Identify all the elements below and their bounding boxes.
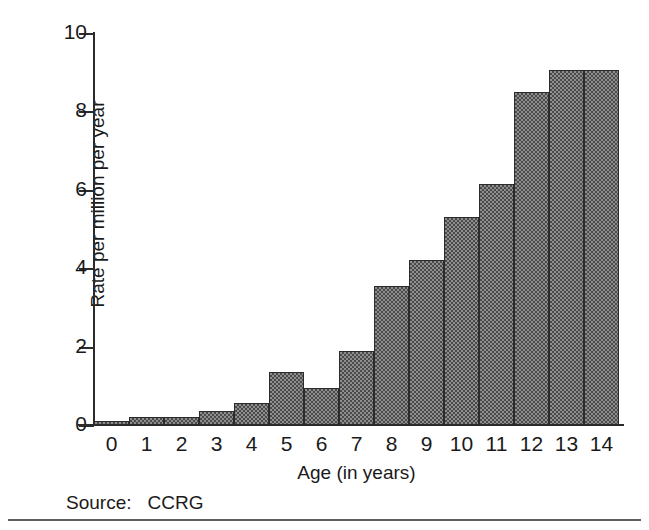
x-axis-tick-label: 12 (514, 432, 549, 456)
y-axis-tick-label: 4 (75, 256, 87, 278)
source-note: Source:CCRG (66, 492, 203, 514)
y-axis-tick-label: 2 (75, 335, 87, 357)
x-axis-tick-label: 8 (374, 432, 409, 456)
x-axis-tick-label: 3 (199, 432, 234, 456)
bottom-divider (8, 519, 641, 521)
bar (304, 388, 339, 425)
bar (514, 92, 549, 425)
x-axis-tick-labels: 01234567891011121314 (94, 432, 619, 460)
x-axis-tick-label: 0 (94, 432, 129, 456)
bar (479, 184, 514, 425)
bar (269, 372, 304, 425)
y-axis-tick-label: 6 (75, 178, 87, 200)
x-axis-tick-label: 6 (304, 432, 339, 456)
bar (549, 70, 584, 425)
bar (339, 351, 374, 425)
bar (374, 286, 409, 425)
plot-area: Rate per million per year 0246810 (94, 33, 619, 425)
x-axis-tick-label: 2 (164, 432, 199, 456)
bar (584, 70, 619, 425)
x-axis-tick-label: 5 (269, 432, 304, 456)
bar (234, 403, 269, 425)
x-axis-tick-label: 13 (549, 432, 584, 456)
bar (199, 411, 234, 425)
x-axis-tick-label: 7 (339, 432, 374, 456)
y-axis-tick-label: 8 (75, 99, 87, 121)
x-axis-tick-label: 9 (409, 432, 444, 456)
x-axis-tick-label: 14 (584, 432, 619, 456)
bar (444, 217, 479, 425)
source-label: Source: (66, 492, 131, 513)
x-axis-tick-label: 4 (234, 432, 269, 456)
x-axis-tick-label: 11 (479, 432, 514, 456)
chart-figure: Rate per million per year 0246810 012345… (0, 0, 649, 530)
x-axis-tick-label: 10 (444, 432, 479, 456)
x-axis-title: Age (in years) (94, 462, 619, 484)
y-axis-line (93, 32, 95, 426)
x-axis-tick-label: 1 (129, 432, 164, 456)
y-axis-tick-label: 10 (64, 21, 87, 43)
x-axis-line (78, 424, 624, 426)
bar-series (94, 33, 619, 425)
source-value: CCRG (147, 492, 203, 513)
bar (409, 260, 444, 425)
